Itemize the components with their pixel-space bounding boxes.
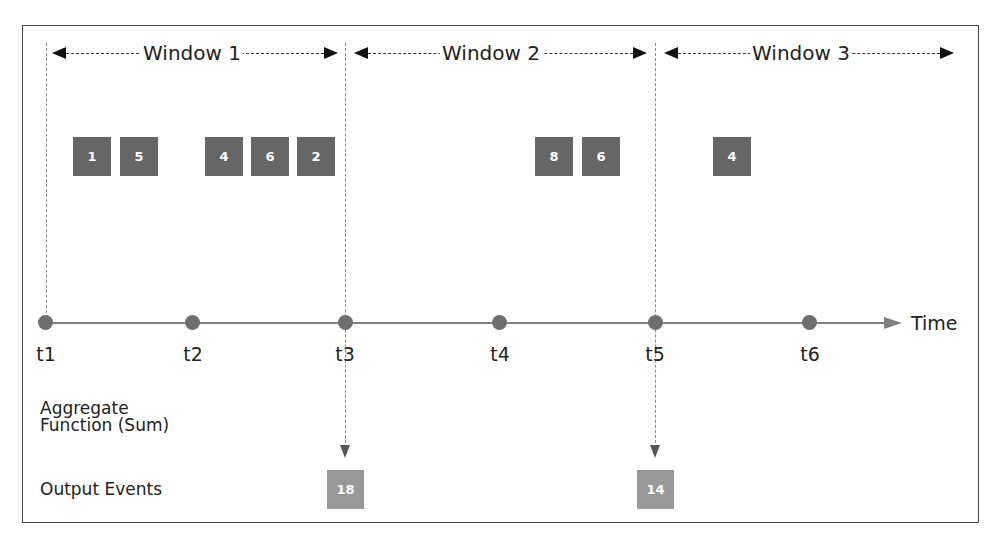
timeline-dot-t5 (648, 315, 663, 330)
event-box: 6 (251, 137, 289, 176)
window-2-right-arrow-icon (633, 47, 647, 59)
window-boundary-t1 (46, 43, 47, 323)
window-3-right-arrow-icon (940, 47, 954, 59)
aggregate-label-line-2: Function (Sum) (40, 417, 169, 434)
output-event-box: 18 (327, 470, 364, 509)
time-axis-label: Time (911, 312, 958, 334)
window-2-label: Window 2 (440, 41, 542, 65)
aggregate-function-label: Aggregate Function (Sum) (40, 400, 169, 434)
window-1-left-arrow-icon (52, 47, 66, 59)
event-box: 6 (582, 137, 620, 176)
event-box: 8 (535, 137, 573, 176)
timeline-dot-t2 (185, 315, 200, 330)
tick-label-t3: t3 (325, 343, 365, 365)
output-event-box: 14 (637, 470, 674, 509)
window-boundary-t5 (655, 43, 656, 443)
timeline-dot-t3 (338, 315, 353, 330)
event-box: 1 (73, 137, 111, 176)
window-1-right-arrow-icon (324, 47, 338, 59)
time-axis (45, 322, 885, 324)
window-boundary-t3 (345, 43, 346, 443)
output-arrow-t3-icon (340, 445, 350, 458)
window-3-left-arrow-icon (664, 47, 678, 59)
tick-label-t5: t5 (635, 343, 675, 365)
timeline-dot-t1 (38, 315, 53, 330)
tick-label-t2: t2 (173, 343, 213, 365)
event-box: 4 (713, 137, 751, 176)
timeline-dot-t4 (492, 315, 507, 330)
diagram-frame (22, 25, 979, 523)
window-2-left-arrow-icon (354, 47, 368, 59)
event-box: 5 (120, 137, 158, 176)
tick-label-t1: t1 (26, 343, 66, 365)
window-1-label: Window 1 (141, 41, 243, 65)
output-arrow-t5-icon (650, 445, 660, 458)
output-events-label: Output Events (40, 481, 162, 498)
window-3-label: Window 3 (750, 41, 852, 65)
time-axis-arrow-icon (884, 317, 902, 329)
tick-label-t4: t4 (480, 343, 520, 365)
timeline-dot-t6 (802, 315, 817, 330)
tick-label-t6: t6 (790, 343, 830, 365)
event-box: 4 (205, 137, 243, 176)
event-box: 2 (297, 137, 335, 176)
